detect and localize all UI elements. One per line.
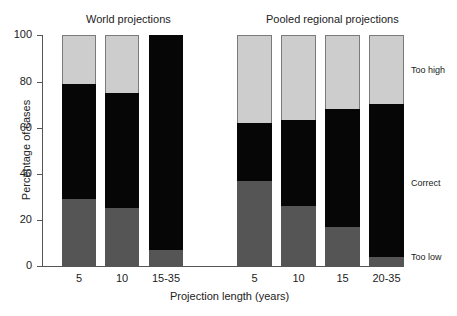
segment-too-high (62, 35, 96, 84)
ytick-label-0: 0 (8, 259, 32, 271)
ytick-label-80: 80 (8, 75, 32, 87)
xtick-regional-10: 10 (281, 272, 316, 284)
ytick-0 (37, 266, 42, 267)
segment-too-high (237, 35, 272, 123)
segment-too-low (62, 199, 96, 266)
ytick-40 (37, 174, 42, 175)
legend-correct: Correct (411, 178, 441, 188)
legend-too-high: Too high (411, 65, 445, 75)
ytick-label-60: 60 (8, 121, 32, 133)
bar-world-5 (62, 0, 96, 266)
xtick-world-10: 10 (105, 272, 139, 284)
segment-too-high (325, 35, 360, 109)
segment-too-high (281, 35, 316, 120)
bar-regional-5 (237, 0, 272, 266)
segment-too-low (369, 257, 404, 266)
segment-too-low (149, 250, 183, 266)
bar-world-15-35 (149, 0, 183, 266)
segment-too-low (281, 206, 316, 266)
segment-correct (369, 104, 404, 256)
ytick-80 (37, 82, 42, 83)
x-axis-line (42, 266, 404, 267)
segment-too-low (105, 208, 139, 266)
ytick-100 (37, 35, 42, 36)
ytick-label-100: 100 (8, 28, 32, 40)
xtick-regional-5: 5 (237, 272, 272, 284)
segment-correct (105, 93, 139, 209)
segment-correct (281, 120, 316, 205)
bar-regional-10 (281, 0, 316, 266)
legend-too-low: Too low (411, 252, 442, 262)
segment-correct (325, 109, 360, 227)
segment-correct (149, 35, 183, 250)
bar-regional-15 (325, 0, 360, 266)
ytick-60 (37, 128, 42, 129)
xtick-world-15-35: 15-35 (149, 272, 183, 284)
segment-too-low (325, 227, 360, 266)
segment-correct (62, 84, 96, 200)
y-axis-line (42, 35, 43, 267)
segment-correct (237, 123, 272, 181)
bar-regional-20-35 (369, 0, 404, 266)
xtick-world-5: 5 (62, 272, 96, 284)
ytick-label-20: 20 (8, 213, 32, 225)
xtick-regional-15: 15 (325, 272, 360, 284)
segment-too-high (105, 35, 139, 93)
y-axis-label: Percentage of cases (20, 90, 32, 210)
ytick-20 (37, 220, 42, 221)
bar-world-10 (105, 0, 139, 266)
segment-too-high (369, 35, 404, 104)
ytick-label-40: 40 (8, 167, 32, 179)
x-axis-label: Projection length (years) (170, 290, 289, 302)
segment-too-low (237, 181, 272, 266)
xtick-regional-20-35: 20-35 (369, 272, 404, 284)
